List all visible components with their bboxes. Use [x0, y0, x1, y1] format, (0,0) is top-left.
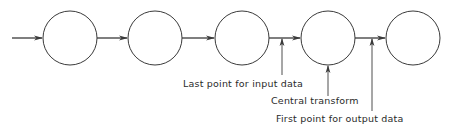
data-flow-diagram: Last point for input dataCentral transfo…	[0, 0, 451, 127]
process-node-circle	[301, 11, 355, 65]
flow-arrows	[12, 35, 386, 40]
annotation-last-input: Last point for input data	[183, 38, 303, 89]
annotation-label: First point for output data	[276, 113, 404, 124]
annotation-label: Central transform	[271, 95, 359, 106]
annotation-pointers: Last point for input dataCentral transfo…	[183, 38, 404, 124]
process-node-circle	[215, 11, 269, 65]
process-node-circle	[43, 11, 97, 65]
process-node-circle	[128, 11, 182, 65]
process-node-circle	[386, 11, 440, 65]
annotation-label: Last point for input data	[183, 78, 303, 89]
